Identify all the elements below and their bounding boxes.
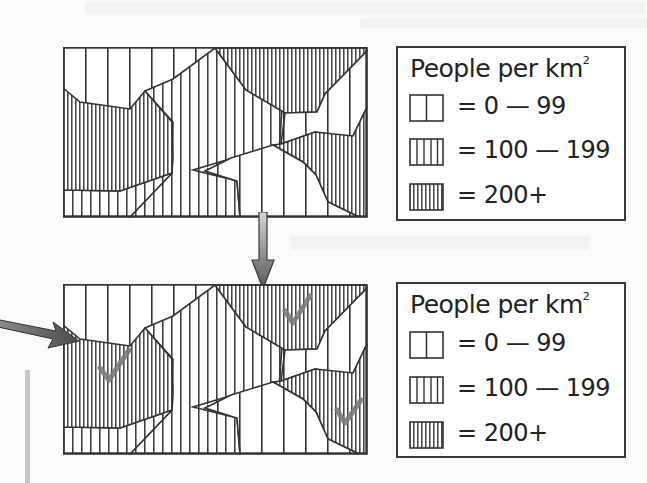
swatch-low-icon	[409, 331, 444, 359]
legend-bottom: People per km2 = 0 — 99 = 100 — 199 = 20…	[396, 282, 626, 458]
legend-title-superscript: 2	[583, 290, 590, 303]
legend-label-high: = 200+	[457, 181, 548, 209]
legend-label-low: = 0 — 99	[457, 329, 566, 357]
map-annotated	[63, 284, 368, 455]
legend-title: People per km2	[410, 54, 589, 83]
down-arrow-icon	[250, 212, 276, 290]
margin-bar	[25, 370, 30, 483]
ghost-text-band	[85, 2, 645, 14]
swatch-low-icon	[409, 94, 444, 122]
ghost-text-band	[290, 236, 590, 250]
pointer-arrow-icon	[0, 312, 82, 354]
legend-label-low: = 0 — 99	[457, 92, 566, 120]
swatch-medium-icon	[409, 138, 444, 166]
legend-label-medium: = 100 — 199	[457, 136, 610, 164]
ghost-text-band	[360, 18, 647, 28]
legend-top: People per km2 = 0 — 99 = 100 — 199 = 20…	[396, 46, 626, 221]
legend-label-medium: = 100 — 199	[457, 374, 610, 402]
swatch-high-icon	[409, 421, 444, 449]
swatch-medium-icon	[409, 376, 444, 404]
legend-title-superscript: 2	[583, 54, 590, 67]
legend-title-text: People per km	[410, 54, 583, 83]
legend-title-text: People per km	[410, 290, 583, 319]
legend-label-high: = 200+	[457, 419, 548, 447]
legend-title: People per km2	[410, 290, 589, 319]
swatch-high-icon	[409, 183, 444, 211]
map-original	[63, 47, 368, 218]
